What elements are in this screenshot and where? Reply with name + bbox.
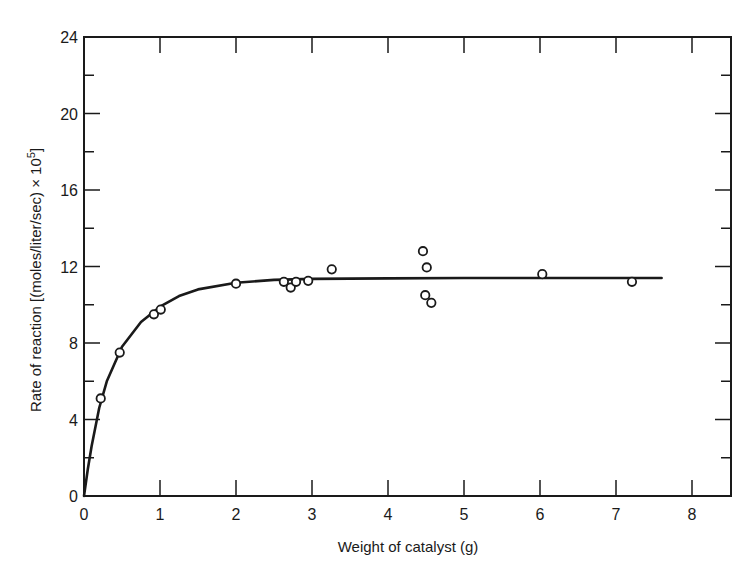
y-tick-label: 12 xyxy=(60,259,78,276)
data-points xyxy=(97,247,637,403)
x-tick-label: 2 xyxy=(232,506,241,523)
x-tick-label: 8 xyxy=(688,506,697,523)
data-point xyxy=(421,291,429,299)
y-axis-title: Rate of reaction [(moles/liter/sec) × 10… xyxy=(25,148,44,412)
x-tick-label: 7 xyxy=(612,506,621,523)
x-tick-label: 1 xyxy=(156,506,165,523)
data-point xyxy=(328,265,336,273)
data-point xyxy=(97,394,105,402)
data-point xyxy=(292,278,300,286)
chart: 012345678 04812162024 Weight of catalyst… xyxy=(0,0,752,572)
data-point xyxy=(628,278,636,286)
x-tick-label: 0 xyxy=(80,506,89,523)
y-tick-label: 20 xyxy=(60,106,78,123)
y-tick-label: 4 xyxy=(69,412,78,429)
data-point xyxy=(232,280,240,288)
y-tick-label: 16 xyxy=(60,182,78,199)
x-tick-label: 4 xyxy=(384,506,393,523)
x-axis-ticks: 012345678 xyxy=(80,37,697,523)
y-axis-ticks: 04812162024 xyxy=(60,29,731,505)
y-tick-label: 0 xyxy=(69,488,78,505)
fitted-curve xyxy=(84,278,662,496)
y-tick-label: 24 xyxy=(60,29,78,46)
data-point xyxy=(157,305,165,313)
x-tick-label: 3 xyxy=(308,506,317,523)
data-point xyxy=(423,263,431,271)
y-tick-label: 8 xyxy=(69,335,78,352)
data-point xyxy=(427,299,435,307)
data-point xyxy=(419,247,427,255)
data-point xyxy=(116,348,124,356)
x-tick-label: 5 xyxy=(460,506,469,523)
plot-frame xyxy=(84,37,731,496)
data-point xyxy=(304,277,312,285)
x-tick-label: 6 xyxy=(536,506,545,523)
data-point xyxy=(538,270,546,278)
x-axis-title: Weight of catalyst (g) xyxy=(338,538,479,555)
